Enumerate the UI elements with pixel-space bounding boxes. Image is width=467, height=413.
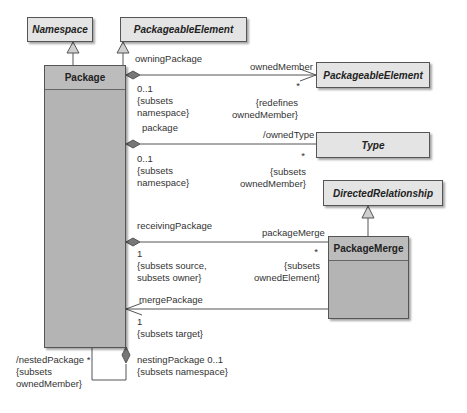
package-merge-constraint: {subsets ownedElement} (250, 260, 320, 284)
type-class[interactable]: Type (316, 132, 430, 158)
nesting-package-role: nestingPackage 0..1 {subsets namespace} (137, 354, 228, 378)
class-name: PackageableElement (323, 70, 423, 81)
owned-member-multiplicity: * (290, 80, 300, 92)
owned-type-role: /ownedType (263, 129, 314, 141)
package-merge-class[interactable]: PackageMerge (328, 236, 409, 319)
nested-package-role: /nestedPackage * {subsets ownedMember} (16, 354, 90, 390)
package-multiplicity: 0..1 {subsets namespace} (137, 153, 189, 189)
owning-package-role: owningPackage (135, 53, 202, 65)
receiving-package-role: receivingPackage (137, 220, 212, 232)
package-role: package (142, 122, 178, 134)
namespace-class[interactable]: Namespace (27, 17, 93, 42)
class-name: PackageableElement (134, 24, 234, 35)
class-name: Package (45, 66, 125, 90)
packageable-element-class-right[interactable]: PackageableElement (316, 62, 430, 88)
directed-relationship-class[interactable]: DirectedRelationship (323, 180, 443, 206)
class-name: PackageMerge (329, 237, 408, 261)
owned-member-constraint: {redefines ownedMember} (232, 97, 298, 121)
package-merge-role: packageMerge (262, 227, 325, 239)
package-merge-multiplicity: * (308, 246, 318, 258)
package-class[interactable]: Package (44, 65, 126, 348)
merge-package-multiplicity: 1 {subsets target} (137, 316, 203, 340)
class-name: DirectedRelationship (333, 188, 433, 199)
owned-type-constraint: {subsets ownedMember} (240, 166, 306, 190)
merge-package-role: mergePackage (139, 294, 203, 306)
owning-package-multiplicity: 0..1 {subsets namespace} (137, 83, 189, 119)
packageable-element-class-top[interactable]: PackageableElement (120, 17, 247, 42)
class-name: Namespace (32, 24, 88, 35)
class-name: Type (362, 140, 385, 151)
receiving-package-multiplicity: 1 {subsets source, subsets owner} (137, 248, 207, 284)
owned-type-multiplicity: * (295, 150, 305, 162)
owned-member-role: ownedMember (250, 61, 313, 73)
